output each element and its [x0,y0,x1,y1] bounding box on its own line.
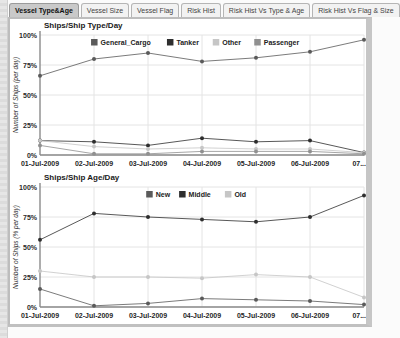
y-tick-label: 50% [23,92,38,99]
x-tick-label: 02-Jul-2009 [75,312,113,319]
chart-title: Ships/Ship Age/Day [44,173,120,182]
legend-swatch [146,191,153,198]
chart-svg: 0%25%50%75%100%01-Jul-200902-Jul-200903-… [10,19,366,171]
data-point [308,139,312,143]
data-point [38,269,42,273]
data-point [362,295,366,299]
data-point [308,149,312,153]
data-point [38,143,42,147]
data-point [92,275,96,279]
data-point [254,273,258,277]
data-point [200,217,204,221]
legend-item: Old [225,191,246,198]
legend-swatch [254,39,261,46]
y-tick-label: 75% [23,214,38,221]
data-point [146,301,150,305]
y-tick-label: 0% [27,304,38,311]
x-tick-label: 01-Jul-2009 [21,312,59,319]
x-tick-label: 03-Jul-2009 [129,160,167,167]
data-point [146,147,150,151]
data-point [146,275,150,279]
legend-item: Middle [179,191,211,198]
data-point [146,215,150,219]
legend-label: Tanker [176,39,199,46]
data-point [308,299,312,303]
data-point [362,38,366,42]
data-point [92,140,96,144]
data-point [92,57,96,61]
data-point [38,74,42,78]
legend-swatch [225,191,232,198]
data-point [38,139,42,143]
data-point [254,56,258,60]
data-point [200,149,204,153]
tab-vessel-flag[interactable]: Vessel Flag [131,3,179,17]
data-point [200,59,204,63]
x-tick-label: 06-Jul-2009 [291,312,329,319]
tab-risk-hist-vs-flag-size[interactable]: Risk Hist Vs Flag & Size [312,3,399,17]
data-point [146,143,150,147]
data-point [254,220,258,224]
tab-risk-hist[interactable]: Risk Hist [181,3,221,17]
x-tick-label: 04-Jul-2009 [183,160,221,167]
data-point [308,275,312,279]
legend-label: Old [234,191,246,198]
legend-label: General_Cargo [101,39,151,47]
x-tick-label: 04-Jul-2009 [183,312,221,319]
legend-item: General_Cargo [91,39,151,47]
x-tick-label: 01-Jul-2009 [21,160,59,167]
data-point [200,297,204,301]
y-tick-label: 25% [23,274,38,281]
x-tick-label: 07... [352,160,366,167]
x-tick-label: 06-Jul-2009 [291,160,329,167]
data-point [254,149,258,153]
legend-item: Passenger [254,39,299,47]
data-point [38,287,42,291]
legend-item: Tanker [167,39,199,46]
y-tick-label: 75% [23,62,38,69]
legend-label: Other [222,39,241,46]
data-point [200,276,204,280]
data-point [92,145,96,149]
tab-bar: Vessel Type&Age Vessel Size Vessel Flag … [9,2,400,17]
data-point [92,211,96,215]
tab-risk-hist-vs-type-age[interactable]: Risk Hist Vs Type & Age [223,3,310,17]
legend-swatch [167,39,174,46]
data-point [308,215,312,219]
legend-item: Other [213,39,241,46]
data-point [308,50,312,54]
ship-age-chart: 0%25%50%75%100%01-Jul-200902-Jul-200903-… [10,171,366,323]
legend-swatch [213,39,220,46]
data-point [362,303,366,307]
legend-label: Middle [189,191,211,198]
data-point [146,152,150,156]
data-point [362,193,366,197]
tab-vessel-size[interactable]: Vessel Size [81,3,129,17]
y-tick-label: 100% [19,32,38,39]
left-edge-strip [0,0,8,338]
data-point [200,146,204,150]
y-tick-label: 0% [27,152,38,159]
data-point [92,152,96,156]
data-point [200,136,204,140]
legend-swatch [179,191,186,198]
x-tick-label: 05-Jul-2009 [237,160,275,167]
data-point [38,238,42,242]
data-point [362,152,366,156]
y-axis-title: Number of Ships (% per day) [12,205,20,289]
ship-type-chart: 0%25%50%75%100%01-Jul-200902-Jul-200903-… [10,19,366,171]
y-tick-label: 50% [23,244,38,251]
legend-label: Passenger [264,39,300,47]
charts-panel: 0%25%50%75%100%01-Jul-200902-Jul-200903-… [8,17,372,327]
chart-svg: 0%25%50%75%100%01-Jul-200902-Jul-200903-… [10,171,366,323]
legend-item: New [146,191,170,198]
x-tick-label: 05-Jul-2009 [237,312,275,319]
x-tick-label: 07... [352,312,366,319]
x-tick-label: 03-Jul-2009 [129,312,167,319]
y-tick-label: 100% [19,184,38,191]
tab-vessel-type-age[interactable]: Vessel Type&Age [9,3,79,17]
data-point [254,140,258,144]
data-point [146,51,150,55]
data-point [254,298,258,302]
x-tick-label: 02-Jul-2009 [75,160,113,167]
